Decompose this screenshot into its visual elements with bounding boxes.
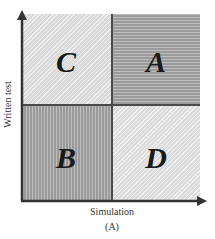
panel-label: (A) xyxy=(62,221,162,232)
x-axis-arrow-icon xyxy=(21,196,207,206)
axes xyxy=(0,0,215,239)
y-axis-arrow-icon xyxy=(17,10,27,201)
y-axis-label: Written test xyxy=(2,70,13,140)
quadrant-diagram: C A B D Written test Simulation (A) xyxy=(0,0,215,239)
x-axis-label: Simulation xyxy=(62,206,162,217)
